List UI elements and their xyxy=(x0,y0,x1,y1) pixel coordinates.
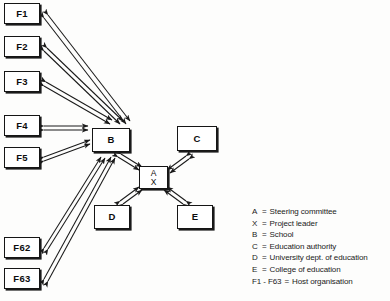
node-f63-label: F63 xyxy=(13,274,30,284)
edge-f1-b-line-a xyxy=(44,18,126,124)
legend-key-f: F1 - F63 xyxy=(252,276,281,288)
edge-f62-b-line-b xyxy=(48,158,105,249)
legend-text-f: Host organisation xyxy=(292,277,353,286)
legend-eq-f: = xyxy=(281,276,292,288)
legend-key-c: C xyxy=(252,241,259,253)
edge-f1-b-line-b xyxy=(48,15,130,121)
node-b-label: B xyxy=(107,135,114,145)
node-b[interactable]: B xyxy=(92,128,130,152)
node-ax[interactable]: A X xyxy=(139,166,168,189)
legend-text-x: Project leader xyxy=(270,219,318,228)
legend-key-e: E xyxy=(252,264,259,276)
node-e[interactable]: E xyxy=(177,205,213,229)
legend-row-f: F1 - F63=Host organisation xyxy=(252,276,388,288)
legend-eq-x: = xyxy=(259,218,270,230)
node-f5[interactable]: F5 xyxy=(4,147,40,168)
legend-row-b: B=School xyxy=(252,229,388,241)
edge-f5-b-line-a xyxy=(44,144,90,161)
legend-text-a: Steering committee xyxy=(270,207,337,216)
node-f62-label: F62 xyxy=(13,243,30,253)
legend-row-a: A=Steering committee xyxy=(252,206,388,218)
legend-eq-d: = xyxy=(259,252,270,264)
node-f1[interactable]: F1 xyxy=(4,3,40,24)
node-x-label: X xyxy=(151,178,157,187)
node-f5-label: F5 xyxy=(16,153,28,163)
node-f4[interactable]: F4 xyxy=(4,115,40,136)
node-f2-label: F2 xyxy=(16,42,28,52)
node-f3[interactable]: F3 xyxy=(4,71,40,92)
legend-eq-e: = xyxy=(259,264,270,276)
legend-row-c: C=Education authority xyxy=(252,241,388,253)
node-f3-label: F3 xyxy=(16,77,28,87)
legend-text-e: College of education xyxy=(270,265,341,274)
node-f62[interactable]: F62 xyxy=(4,237,40,258)
legend-text-b: School xyxy=(270,230,294,239)
node-c[interactable]: C xyxy=(177,126,217,151)
legend-key-a: A xyxy=(252,206,259,218)
node-e-label: E xyxy=(192,212,199,222)
legend-key-b: B xyxy=(252,229,259,241)
legend-eq-b: = xyxy=(259,229,270,241)
legend-eq-c: = xyxy=(259,241,270,253)
legend-key-d: D xyxy=(252,252,259,264)
node-f1-label: F1 xyxy=(16,9,28,19)
node-d-label: D xyxy=(108,212,115,222)
legend-text-d: University dept. of education xyxy=(270,253,368,262)
legend-row-e: E=College of education xyxy=(252,264,388,276)
legend-text-c: Education authority xyxy=(270,242,337,251)
diagram-canvas: F1 F2 F3 F4 F5 F62 F63 B C A X D E A=Ste… xyxy=(0,0,390,301)
legend: A=Steering committee X=Project leader B=… xyxy=(252,206,388,287)
legend-row-x: X=Project leader xyxy=(252,218,388,230)
node-f2[interactable]: F2 xyxy=(4,36,40,57)
legend-eq-a: = xyxy=(259,206,270,218)
edge-f5-b-line-b xyxy=(44,140,90,157)
node-c-label: C xyxy=(193,134,200,144)
edge-f62-b-line-a xyxy=(44,157,101,248)
node-f4-label: F4 xyxy=(16,121,28,131)
node-f63[interactable]: F63 xyxy=(4,268,40,289)
node-d[interactable]: D xyxy=(94,205,130,229)
legend-row-d: D=University dept. of education xyxy=(252,252,388,264)
legend-key-x: X xyxy=(252,218,259,230)
